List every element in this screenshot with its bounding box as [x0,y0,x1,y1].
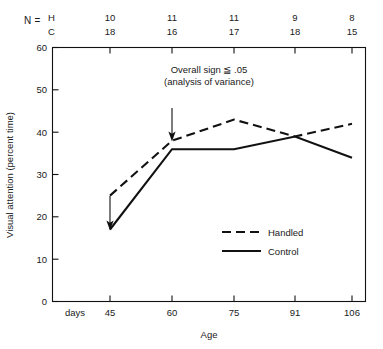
x-axis-tick-labels: days 45 60 75 91 106 [65,307,360,318]
arrow-handled-60 [168,108,175,142]
y-tick-40: 40 [36,127,47,138]
chart-legend: Handled Control [222,227,303,257]
y-tick-30: 30 [36,169,47,180]
x-axis-title: Age [201,329,218,340]
x-tick-91: 91 [290,307,301,318]
significance-annotation: Overall sign ≦ .05 (analysis of variance… [164,64,254,87]
y-tick-10: 10 [36,254,47,265]
line-chart: 0 10 20 30 40 50 60 Visual attention (pe… [0,0,383,349]
y-tick-60: 60 [36,42,47,53]
y-tick-20: 20 [36,211,47,222]
x-label-days: days [65,307,85,318]
x-tick-106: 106 [344,307,360,318]
figure-container: N = H 10 11 11 9 8 C 18 16 17 18 15 0 10 [0,0,383,349]
y-axis-ticks [53,48,59,302]
legend-label-handled: Handled [268,227,303,238]
legend-label-control: Control [268,246,299,257]
y-tick-0: 0 [42,296,47,307]
significance-line-1: Overall sign ≦ .05 [171,64,248,75]
y-tick-50: 50 [36,84,47,95]
x-tick-60: 60 [167,307,178,318]
significance-line-2: (analysis of variance) [164,76,254,87]
x-tick-45: 45 [105,307,116,318]
x-tick-75: 75 [229,307,240,318]
series-control-line [110,137,352,230]
y-axis-tick-labels: 0 10 20 30 40 50 60 [36,42,47,307]
y-axis-title: Visual attention (percent time) [4,112,15,238]
